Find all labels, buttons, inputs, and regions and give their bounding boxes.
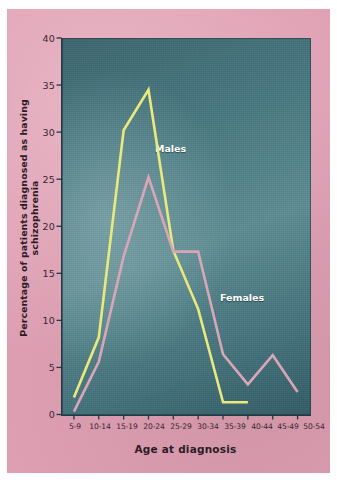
chart-figure: 40 35 30 25 20 15 10 5 0 5-9 10-14 15-19… bbox=[0, 0, 337, 482]
chart-vector-layer bbox=[0, 0, 337, 482]
axis-ticks bbox=[57, 38, 298, 420]
series-lines bbox=[74, 90, 298, 412]
series-line-females bbox=[74, 177, 298, 411]
